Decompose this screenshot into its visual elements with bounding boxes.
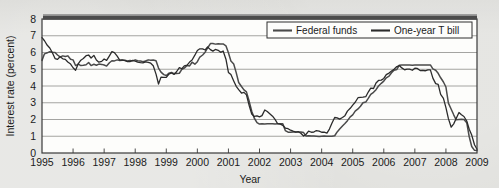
legend: Federal funds One-year T bill <box>267 22 472 38</box>
x-tick-label: 1997 <box>92 156 116 168</box>
x-axis-label: Year <box>239 173 261 185</box>
x-tick-label: 1995 <box>30 156 54 168</box>
x-tick-label: 2007 <box>403 156 427 168</box>
y-tick-label: 8 <box>30 13 36 25</box>
x-tick-label: 2006 <box>372 156 396 168</box>
figure-container: 012345678 199519961997199819992000200120… <box>0 0 499 188</box>
y-tick-label: 3 <box>30 96 36 108</box>
y-tick-labels: 012345678 <box>30 13 36 159</box>
interest-rate-line-chart: 012345678 199519961997199819992000200120… <box>0 0 499 188</box>
x-tick-label: 2002 <box>248 156 272 168</box>
x-tick-label: 2003 <box>279 156 303 168</box>
y-tick-label: 4 <box>30 80 36 92</box>
top-edge-band <box>43 16 477 20</box>
y-tick-label: 7 <box>30 29 36 41</box>
y-tick-label: 6 <box>30 46 36 58</box>
y-tick-label: 5 <box>30 63 36 75</box>
y-axis-label: Interest rate (percent) <box>4 36 16 137</box>
x-tick-label: 1999 <box>155 156 179 168</box>
x-tick-label: 2000 <box>186 156 210 168</box>
x-tick-label: 2004 <box>310 156 334 168</box>
x-tick-label: 1996 <box>61 156 85 168</box>
x-tick-label: 2001 <box>217 156 241 168</box>
x-tick-label: 2008 <box>434 156 458 168</box>
y-tick-label: 1 <box>30 130 36 142</box>
legend-label-one-year-t-bill: One-year T bill <box>394 25 459 36</box>
legend-label-federal-funds: Federal funds <box>296 25 357 36</box>
x-tick-label: 2009 <box>465 156 489 168</box>
x-tick-label: 1998 <box>124 156 148 168</box>
x-tick-labels: 1995199619971998199920002001200220032004… <box>30 156 489 168</box>
y-tick-label: 2 <box>30 113 36 125</box>
top-edge-band-shadow <box>43 14 477 15</box>
x-tick-label: 2005 <box>341 156 365 168</box>
